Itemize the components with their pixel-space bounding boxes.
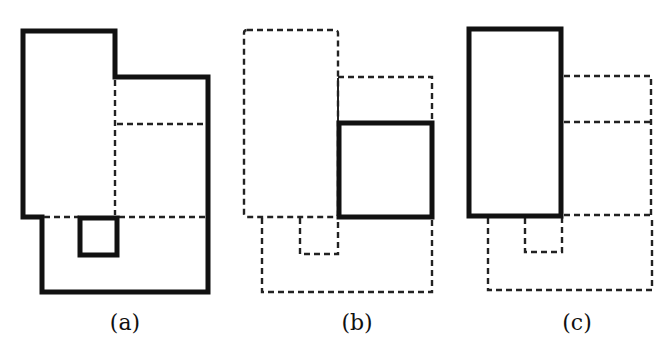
panel-b-caption: (b) <box>341 310 372 335</box>
panel-c-small-square <box>525 218 562 252</box>
panel-b: (b) <box>244 30 432 335</box>
panel-b-right-middle-square <box>339 123 432 217</box>
panel-c-upper-right-rect <box>564 76 651 216</box>
panel-b-upper-right-rect <box>338 77 432 122</box>
panel-c-left-tall-rect <box>469 29 561 216</box>
panel-a-caption: (a) <box>110 310 140 335</box>
floorplan-figure: (a) (b) (c) <box>0 0 668 348</box>
panel-b-bottom-region <box>262 218 432 292</box>
panel-c-bottom-region <box>488 216 652 290</box>
panel-b-left-tall-rect <box>244 30 338 217</box>
panel-c: (c) <box>469 29 652 335</box>
panel-c-caption: (c) <box>562 310 592 335</box>
panel-b-small-square <box>300 218 338 254</box>
panel-a-small-square <box>80 218 117 255</box>
panel-a: (a) <box>23 31 208 335</box>
